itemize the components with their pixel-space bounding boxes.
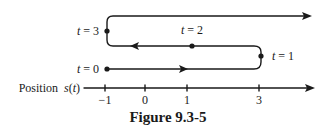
point-t0-dot	[104, 66, 109, 71]
point-t1-dot	[258, 53, 263, 58]
tick-label-3: 3	[256, 93, 262, 107]
tick-label-0: 0	[142, 93, 148, 107]
point-t3-dot	[104, 28, 109, 33]
label-t2: t = 2	[181, 23, 203, 37]
figure-caption: Figure 9.3-5	[129, 109, 206, 125]
label-t1: t = 1	[272, 49, 294, 63]
point-t2-dot	[189, 43, 194, 48]
tick-label-1: 1	[184, 93, 190, 107]
label-t3: t = 3	[77, 24, 99, 38]
tick-label-neg1: −1	[99, 93, 112, 107]
label-t0: t = 0	[77, 62, 99, 76]
axis-label: Positions(t)	[19, 81, 80, 95]
motion-diagram: t = 0 t = 1 t = 2 t = 3 Positions(t) −1 …	[0, 0, 331, 128]
